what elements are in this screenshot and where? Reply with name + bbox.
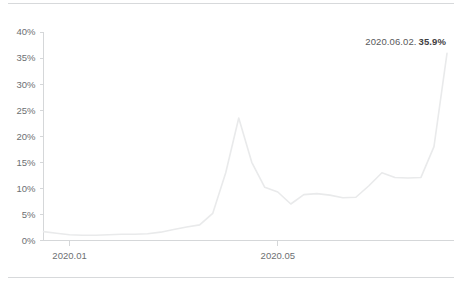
- annotation-value: 35.9%: [419, 36, 446, 47]
- chart-canvas: 0%5%10%15%20%25%30%35%40% 2020.012020.05: [0, 10, 462, 272]
- data-series-line: [44, 53, 448, 235]
- y-axis-tick-label: 30%: [16, 79, 36, 90]
- y-axis-tick-label: 40%: [16, 26, 36, 37]
- y-axis-tick-label: 10%: [16, 183, 36, 194]
- bottom-divider-rule: [8, 277, 454, 278]
- value-annotation: 2020.06.02.35.9%: [365, 36, 446, 47]
- y-axis-tick-label: 15%: [16, 157, 36, 168]
- y-axis-tick-label: 0%: [22, 235, 36, 246]
- line-chart: 0%5%10%15%20%25%30%35%40% 2020.012020.05: [0, 10, 462, 272]
- x-axis-tick-group: 2020.012020.05: [52, 241, 295, 261]
- y-axis-tick-label: 20%: [16, 131, 36, 142]
- chart-page: 0%5%10%15%20%25%30%35%40% 2020.012020.05…: [0, 0, 462, 287]
- annotation-date: 2020.06.02.: [365, 36, 416, 47]
- y-axis-tick-label: 35%: [16, 52, 36, 63]
- x-axis-tick-label: 2020.05: [261, 250, 295, 261]
- y-axis-tick-label: 25%: [16, 105, 36, 116]
- x-axis-tick-label: 2020.01: [52, 250, 86, 261]
- top-divider-rule: [8, 3, 454, 4]
- y-axis-tick-label: 5%: [22, 209, 36, 220]
- y-axis-tick-group: 0%5%10%15%20%25%30%35%40%: [16, 26, 43, 246]
